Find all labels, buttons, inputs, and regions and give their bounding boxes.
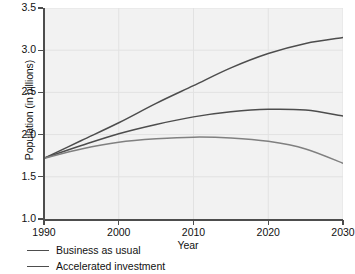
y-tick-label: 2.0 [21,128,36,140]
x-tick-label: 1990 [32,226,55,238]
y-tick-mark [38,7,43,8]
legend-line-swatch-icon [27,250,49,251]
x-tick-mark [118,220,119,225]
legend-item-accelerated-investment: Accelerated investment [27,259,267,274]
y-axis-line [43,8,45,220]
y-tick-label: 2.5 [21,85,36,97]
y-tick-mark [38,176,43,177]
y-tick-label: 3.0 [21,43,36,55]
x-tick-mark [43,220,44,225]
y-tick-mark [38,134,43,135]
y-tick-mark [38,50,43,51]
x-tick-mark [193,220,194,225]
legend-line-swatch-icon [27,266,49,267]
y-tick-mark [38,218,43,219]
y-tick-label: 1.5 [21,170,36,182]
legend-label: Business as usual [56,244,141,257]
gridlines [44,8,343,219]
x-tick-label: 2010 [182,226,205,238]
legend-label: Accelerated investment [56,260,165,273]
y-tick-label: 1.0 [21,212,36,224]
y-tick-mark [38,92,43,93]
x-tick-label: 2030 [331,226,354,238]
legend-item-business-as-usual: Business as usual [27,243,267,258]
x-tick-label: 2020 [257,226,280,238]
x-tick-mark [342,220,343,225]
x-tick-mark [268,220,269,225]
plot-area [44,8,343,219]
y-tick-label: 3.5 [21,1,36,13]
plot-svg [44,8,343,219]
chart-legend: Business as usual Accelerated investment [27,243,267,274]
x-tick-label: 2000 [107,226,130,238]
